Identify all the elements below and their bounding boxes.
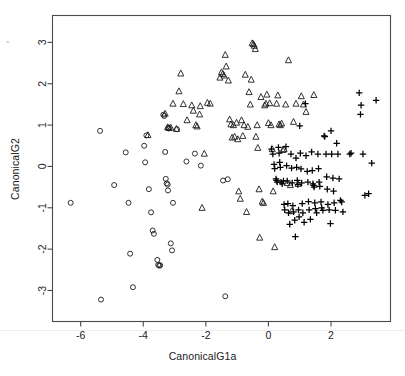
data-point-triangle [254, 122, 260, 128]
data-point-plus [309, 167, 315, 173]
x-axis-ticks: -6-4-202 [76, 322, 334, 341]
data-point-triangle [197, 111, 203, 117]
data-point-circle [192, 151, 197, 156]
data-point-circle [170, 248, 175, 253]
data-point-triangle [244, 209, 250, 215]
plot-canvas: -6-4-202 -3-2-10123 [0, 0, 405, 376]
data-point-plus [332, 207, 338, 213]
data-point-triangle [223, 63, 229, 69]
y-tick-label: 2 [36, 81, 48, 87]
data-point-circle [223, 294, 228, 299]
data-point-plus [322, 133, 328, 139]
data-point-triangle [285, 57, 291, 63]
data-point-plus [356, 90, 362, 96]
data-point-triangle [176, 88, 182, 94]
data-point-plus [328, 128, 334, 134]
data-point-triangle [290, 118, 296, 124]
data-point-plus [327, 220, 333, 226]
series-plus [268, 90, 379, 240]
data-point-triangle [258, 94, 264, 100]
data-point-triangle [255, 145, 261, 151]
y-tick-label: 1 [36, 122, 48, 128]
data-point-circle [143, 160, 148, 165]
data-point-plus [287, 221, 293, 227]
data-point-plus [306, 207, 312, 213]
data-point-plus [333, 140, 339, 146]
data-point-triangle [240, 133, 246, 139]
data-point-circle [198, 163, 203, 168]
data-point-triangle [201, 150, 207, 156]
data-point-plus [312, 200, 318, 206]
data-point-plus [308, 149, 314, 155]
data-point-plus [316, 179, 322, 185]
data-point-plus [281, 201, 287, 207]
data-point-plus [297, 150, 303, 156]
data-point-plus [315, 151, 321, 157]
data-point-plus [299, 200, 305, 206]
plot-frame [53, 16, 391, 322]
data-point-plus [373, 97, 379, 103]
data-point-plus [292, 234, 298, 240]
data-point-triangle [197, 103, 203, 109]
data-point-plus [330, 175, 336, 181]
data-point-plus [323, 174, 329, 180]
data-point-triangle [253, 133, 259, 139]
data-point-triangle [236, 188, 242, 194]
data-point-plus [317, 183, 323, 189]
data-point-circle [130, 285, 135, 290]
data-point-plus [313, 210, 319, 216]
data-point-plus [300, 210, 306, 216]
series-circle [68, 112, 230, 302]
data-point-plus [318, 199, 324, 205]
data-point-plus [296, 214, 302, 220]
data-point-triangle [272, 244, 278, 250]
data-point-triangle [298, 93, 304, 99]
data-point-plus [293, 155, 299, 161]
data-point-circle [99, 297, 104, 302]
data-point-triangle [248, 76, 254, 82]
data-point-circle [98, 128, 103, 133]
scatter-plot-figure: -6-4-202 -3-2-10123 CanonicalG1a Canonic… [0, 0, 405, 376]
data-point-plus [277, 159, 283, 165]
data-point-circle [146, 187, 151, 192]
data-point-circle [123, 150, 128, 155]
y-tick-label: 3 [36, 39, 48, 45]
data-point-triangle [270, 188, 276, 194]
data-point-plus [360, 151, 366, 157]
data-point-triangle [237, 195, 243, 201]
data-point-plus [277, 164, 283, 170]
data-point-circle [184, 159, 189, 164]
data-point-plus [369, 160, 375, 166]
data-point-circle [165, 182, 170, 187]
data-point-circle [168, 241, 173, 246]
data-point-plus [335, 151, 341, 157]
data-point-triangle [227, 116, 233, 122]
data-point-circle [68, 200, 73, 205]
data-point-plus [347, 151, 353, 157]
data-point-circle [165, 188, 170, 193]
data-point-triangle [274, 100, 280, 106]
y-axis-label: CanonicalG2 [9, 123, 21, 215]
x-axis-label: CanonicalG1a [0, 350, 405, 362]
data-point-triangle [247, 101, 253, 107]
scan-speck [6, 41, 9, 43]
data-point-plus [305, 198, 311, 204]
data-point-plus [330, 188, 336, 194]
data-point-plus [307, 216, 313, 222]
data-point-circle [149, 210, 154, 215]
data-point-triangle [199, 204, 205, 210]
y-tick-label: -3 [36, 286, 48, 295]
y-tick-label: -1 [36, 203, 48, 212]
data-point-triangle [246, 89, 252, 95]
data-point-plus [315, 165, 321, 171]
data-point-plus [336, 176, 342, 182]
data-point-plus [358, 102, 364, 108]
data-point-plus [323, 151, 329, 157]
data-point-plus [304, 168, 310, 174]
data-point-triangle [264, 91, 270, 97]
data-point-circle [142, 143, 147, 148]
data-point-triangle [257, 234, 263, 240]
data-point-circle [155, 257, 160, 262]
data-point-plus [285, 210, 291, 216]
data-point-plus [328, 151, 334, 157]
